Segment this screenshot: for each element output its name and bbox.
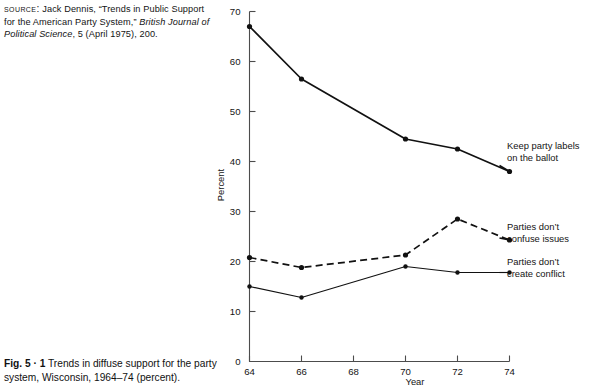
chart-axes: [250, 12, 510, 362]
chart-canvas: 010203040506070646668707274 Percent Year: [210, 0, 589, 389]
series-label-confuse-issues: Parties don’t confuse issues: [507, 221, 569, 245]
series-label-confuse-line2: confuse issues: [507, 233, 569, 245]
y-tick-label: 10: [230, 306, 241, 317]
data-point: [299, 76, 304, 81]
series-path-0: [250, 27, 510, 172]
series-path-1: [250, 219, 510, 268]
figure-caption: Fig. 5 · 1 Trends in diffuse support for…: [4, 357, 222, 384]
series-label-keep-line1: Keep party labels: [507, 140, 579, 152]
x-axis-title: Year: [406, 376, 425, 387]
source-note: Source: Jack Dennis, “Trends in Public S…: [4, 3, 210, 41]
series-label-keep-party-labels: Keep party labels on the ballot: [507, 140, 579, 164]
line-chart: 010203040506070646668707274 Percent Year…: [210, 0, 589, 389]
y-tick-label: 30: [230, 206, 241, 217]
source-note-prefix: Source:: [4, 3, 40, 14]
data-point: [403, 136, 408, 141]
y-tick-label: 50: [230, 106, 241, 117]
y-tick-label: 20: [230, 256, 241, 267]
y-tick-label: 40: [230, 156, 241, 167]
data-point: [455, 216, 460, 221]
data-point: [403, 252, 408, 257]
y-tick-label: 70: [230, 6, 241, 17]
data-point: [299, 295, 303, 299]
data-point: [247, 284, 251, 288]
data-point: [247, 24, 252, 29]
y-axis-title: Percent: [215, 168, 226, 201]
chart-tick-labels: 010203040506070646668707274: [230, 6, 516, 377]
series-label-keep-line2: on the ballot: [507, 152, 579, 164]
x-tick-label: 66: [296, 366, 307, 377]
data-point: [455, 146, 460, 151]
y-tick-label: 0: [235, 356, 240, 367]
series-label-create-line2: create conflict: [507, 268, 565, 280]
x-tick-label: 74: [504, 366, 515, 377]
figure-page: Source: Jack Dennis, “Trends in Public S…: [0, 0, 589, 389]
x-tick-label: 64: [244, 366, 255, 377]
series-label-create-line1: Parties don’t: [507, 256, 565, 268]
x-tick-label: 68: [348, 366, 359, 377]
data-point: [455, 270, 459, 274]
x-tick-label: 72: [452, 366, 463, 377]
y-tick-label: 60: [230, 56, 241, 67]
data-point: [299, 265, 304, 270]
data-point: [403, 264, 407, 268]
source-note-text-2: , 5 (April 1975), 200.: [72, 29, 157, 39]
series-label-confuse-line1: Parties don’t: [507, 221, 569, 233]
chart-series: [247, 24, 512, 300]
data-point: [247, 255, 252, 260]
series-path-2: [250, 267, 510, 298]
series-label-create-conflict: Parties don’t create conflict: [507, 256, 565, 280]
figure-number: Fig. 5 · 1: [4, 358, 45, 369]
